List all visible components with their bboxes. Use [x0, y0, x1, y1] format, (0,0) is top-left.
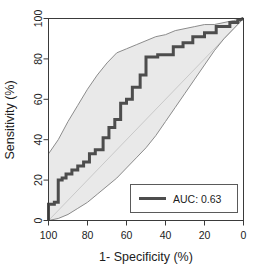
roc-chart-canvas: 100806040200 020406080100 1- Specificity… — [0, 0, 259, 270]
x-tick-label: 20 — [199, 229, 211, 241]
y-tick-label: 60 — [32, 93, 44, 105]
y-tick-label: 80 — [32, 53, 44, 65]
x-tick-label: 80 — [82, 229, 94, 241]
legend: AUC: 0.63 — [131, 185, 238, 213]
roc-curve-figure: 100806040200 020406080100 1- Specificity… — [0, 0, 259, 270]
y-tick-label: 40 — [32, 134, 44, 146]
x-tick-label: 40 — [160, 229, 172, 241]
y-axis-title: Sensitivity (%) — [3, 80, 17, 159]
x-axis-title: 1- Specificity (%) — [99, 250, 193, 264]
y-tick-label: 0 — [32, 217, 44, 223]
y-tick-label: 20 — [32, 174, 44, 186]
x-tick-label: 60 — [121, 229, 133, 241]
x-tick-label: 0 — [241, 229, 247, 241]
legend-entry-label: AUC: 0.63 — [173, 193, 222, 205]
y-tick-label: 100 — [32, 10, 44, 28]
x-tick-label: 100 — [40, 229, 58, 241]
